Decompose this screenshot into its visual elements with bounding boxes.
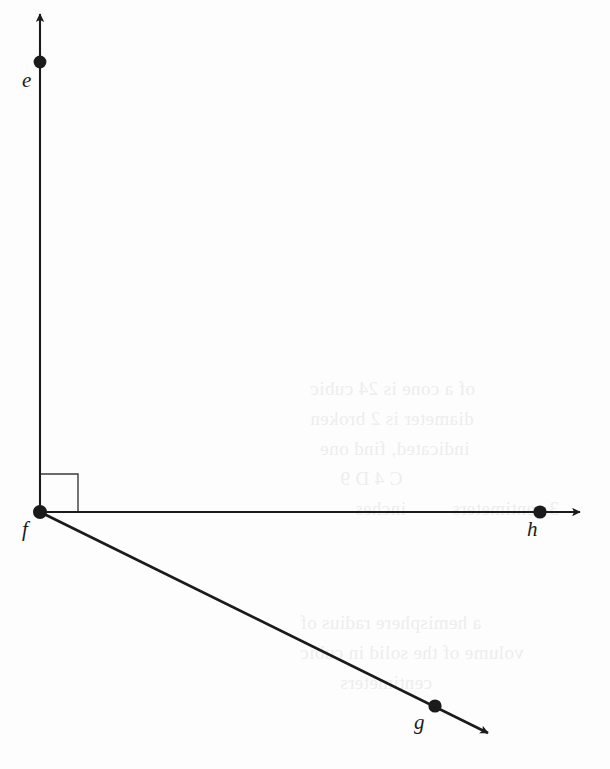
ray-fg [40,512,488,733]
geometry-diagram [0,0,610,769]
point-label-g: g [414,712,425,733]
right-angle-marker [40,474,78,512]
point-label-f: f [22,519,28,540]
point-label-e: e [22,70,31,91]
point-g [428,699,441,712]
point-label-h: h [527,519,538,540]
figure-canvas: of a cone is 24 cubicdiameter is 2 broke… [0,0,610,769]
point-f [33,505,47,519]
point-e [34,56,47,69]
